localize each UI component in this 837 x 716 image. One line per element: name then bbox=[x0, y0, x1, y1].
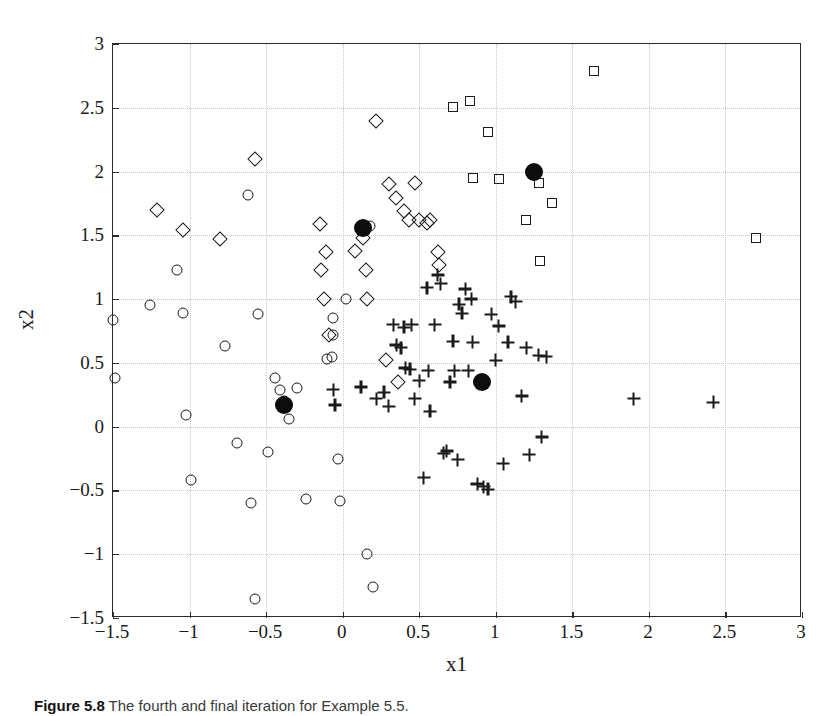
gridline-horizontal bbox=[113, 108, 800, 109]
gridline-horizontal bbox=[113, 235, 800, 236]
y-tick-label: −1 bbox=[84, 544, 104, 563]
data-point-diamond bbox=[388, 191, 404, 207]
y-tick-label: 1.5 bbox=[80, 225, 104, 244]
x-tick-label: 3 bbox=[796, 622, 806, 641]
data-point-square bbox=[547, 198, 557, 208]
x-tick-mark bbox=[419, 612, 420, 618]
data-point-circle bbox=[178, 308, 189, 319]
x-tick-label: −0.5 bbox=[248, 622, 282, 641]
data-point-circle bbox=[186, 475, 197, 486]
data-point-plus bbox=[466, 336, 479, 349]
data-point-square bbox=[448, 102, 458, 112]
data-point-plus bbox=[474, 376, 487, 389]
data-point-circle bbox=[365, 221, 376, 232]
gridline-horizontal bbox=[113, 172, 800, 173]
gridline-horizontal bbox=[113, 363, 800, 364]
data-point-plus bbox=[404, 363, 417, 376]
y-tick-mark bbox=[113, 108, 119, 109]
data-point-plus bbox=[405, 318, 418, 331]
data-point-plus bbox=[502, 336, 515, 349]
data-point-plus bbox=[505, 290, 518, 303]
gridline-vertical bbox=[572, 44, 573, 616]
data-point-plus bbox=[627, 392, 640, 405]
y-tick-mark bbox=[113, 299, 119, 300]
data-point-circle bbox=[326, 351, 337, 362]
x-tick-mark bbox=[725, 612, 726, 618]
y-tick-mark bbox=[113, 490, 119, 491]
data-point-plus bbox=[515, 390, 528, 403]
gridline-vertical bbox=[190, 44, 191, 616]
data-point-plus bbox=[443, 376, 456, 389]
data-point-diamond bbox=[422, 212, 438, 228]
data-point-plus bbox=[382, 400, 395, 413]
data-point-square bbox=[534, 178, 544, 188]
x-tick-mark bbox=[343, 612, 344, 618]
data-point-diamond bbox=[390, 374, 406, 390]
data-point-diamond bbox=[369, 113, 385, 129]
data-point-square bbox=[468, 173, 478, 183]
y-tick-label: 0.5 bbox=[80, 352, 104, 371]
gridline-horizontal bbox=[113, 490, 800, 491]
x-axis-title: x1 bbox=[112, 652, 801, 677]
y-tick-label: −0.5 bbox=[70, 480, 104, 499]
data-point-plus bbox=[440, 444, 453, 457]
y-tick-mark bbox=[113, 363, 119, 364]
data-point-diamond bbox=[381, 177, 397, 193]
data-point-plus bbox=[422, 364, 435, 377]
data-point-circle bbox=[108, 314, 119, 325]
y-tick-mark bbox=[113, 618, 119, 619]
cluster-centroid-marker bbox=[355, 220, 370, 235]
figure-caption: Figure 5.8 The fourth and final iteratio… bbox=[34, 697, 814, 715]
data-point-square bbox=[483, 127, 493, 137]
data-point-circle bbox=[144, 300, 155, 311]
x-tick-mark bbox=[496, 612, 497, 618]
gridline-horizontal bbox=[113, 554, 800, 555]
data-point-circle bbox=[250, 593, 261, 604]
data-point-circle bbox=[262, 447, 273, 458]
data-point-plus bbox=[482, 483, 495, 496]
data-point-plus bbox=[456, 307, 469, 320]
data-point-plus bbox=[434, 277, 447, 290]
gridline-vertical bbox=[266, 44, 267, 616]
data-point-circle bbox=[242, 189, 253, 200]
data-point-circle bbox=[291, 383, 302, 394]
data-point-plus bbox=[509, 295, 522, 308]
data-point-square bbox=[589, 66, 599, 76]
data-point-circle bbox=[270, 373, 281, 384]
data-point-plus bbox=[497, 457, 510, 470]
data-point-circle bbox=[328, 313, 339, 324]
data-point-diamond bbox=[312, 216, 328, 232]
gridline-vertical bbox=[496, 44, 497, 616]
data-point-circle bbox=[109, 373, 120, 384]
data-point-circle bbox=[284, 414, 295, 425]
data-point-plus bbox=[707, 396, 720, 409]
y-tick-label: 2 bbox=[95, 161, 105, 180]
gridline-horizontal bbox=[113, 299, 800, 300]
y-tick-mark bbox=[113, 554, 119, 555]
x-tick-mark bbox=[190, 612, 191, 618]
data-point-plus bbox=[540, 350, 553, 363]
data-point-plus bbox=[329, 398, 342, 411]
data-point-circle bbox=[328, 329, 339, 340]
data-point-diamond bbox=[347, 243, 363, 259]
data-point-plus bbox=[535, 430, 548, 443]
data-point-circle bbox=[279, 396, 290, 407]
data-point-plus bbox=[451, 453, 464, 466]
x-tick-mark bbox=[802, 612, 803, 618]
figure-container: −1.5−1−0.500.511.522.53 −1.5−1−0.500.511… bbox=[0, 0, 837, 716]
gridline-vertical bbox=[649, 44, 650, 616]
data-point-plus bbox=[378, 386, 391, 399]
y-axis-tick-labels: −1.5−1−0.500.511.522.53 bbox=[0, 0, 104, 716]
scatter-plot-area bbox=[112, 43, 801, 617]
data-point-plus bbox=[355, 381, 368, 394]
data-point-diamond bbox=[378, 353, 394, 369]
data-point-circle bbox=[300, 494, 311, 505]
data-point-plus bbox=[423, 405, 436, 418]
y-tick-label: 2.5 bbox=[80, 97, 104, 116]
data-point-square bbox=[521, 215, 531, 225]
x-tick-mark bbox=[649, 612, 650, 618]
data-point-circle bbox=[245, 498, 256, 509]
x-tick-label: 2 bbox=[643, 622, 653, 641]
gridline-vertical bbox=[343, 44, 344, 616]
data-point-diamond bbox=[150, 202, 166, 218]
